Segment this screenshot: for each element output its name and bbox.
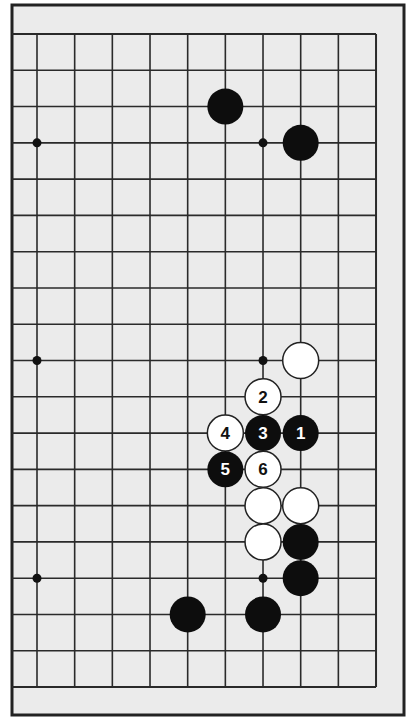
black-stone: 1: [283, 415, 319, 451]
move-number-label: 2: [258, 388, 267, 407]
black-stone: 5: [207, 451, 243, 487]
white-stone: [245, 524, 281, 560]
star-point: [33, 574, 42, 583]
white-stone: 4: [207, 415, 243, 451]
white-stone: [283, 488, 319, 524]
black-stone: [283, 125, 319, 161]
go-board-diagram: 213456: [0, 0, 409, 727]
black-stone: [283, 524, 319, 560]
move-number-label: 5: [221, 460, 230, 479]
white-stone: 6: [245, 451, 281, 487]
black-stone: 3: [245, 415, 281, 451]
move-number-label: 6: [258, 460, 267, 479]
white-stone: [283, 343, 319, 379]
star-point: [259, 138, 268, 147]
move-number-label: 3: [258, 424, 267, 443]
move-number-label: 1: [296, 424, 305, 443]
black-stone: [207, 89, 243, 125]
star-point: [259, 574, 268, 583]
white-stone: 2: [245, 379, 281, 415]
black-stone: [245, 596, 281, 632]
white-stone: [245, 488, 281, 524]
black-stone: [283, 560, 319, 596]
star-point: [33, 138, 42, 147]
star-point: [259, 356, 268, 365]
star-point: [33, 356, 42, 365]
move-number-label: 4: [221, 424, 231, 443]
black-stone: [170, 596, 206, 632]
